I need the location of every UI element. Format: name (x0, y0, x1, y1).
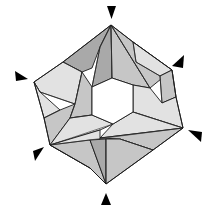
polyhedron-illustration (0, 0, 215, 221)
arrow-marker-right-icon (188, 130, 202, 142)
arrow-marker-bottom-icon (101, 193, 111, 205)
arrow-marker-upper-left-icon (15, 71, 28, 81)
arrow-marker-top-icon (107, 6, 116, 19)
origami-diagram: Origami modular polyhedron (hexagonal ri… (0, 0, 215, 221)
arrow-marker-lower-left-icon (33, 147, 44, 161)
arrow-marker-upper-right-icon (172, 55, 184, 68)
